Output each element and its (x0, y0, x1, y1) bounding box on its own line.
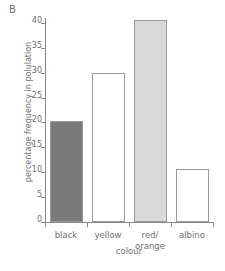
y-tick-label: 20 (32, 116, 42, 124)
y-tick-label: 5 (37, 191, 42, 199)
y-tick-label: 25 (32, 92, 42, 100)
x-tick-mark (87, 222, 88, 227)
panel-label: B (9, 5, 16, 15)
x-tick-label-albino: albino (171, 230, 213, 241)
bar-red-orange (134, 20, 167, 222)
x-axis-title: colour (45, 247, 213, 256)
plot-area: 0510152025303540 blackyellowred/ orangea… (45, 18, 213, 222)
x-tick-label-yellow: yellow (87, 230, 129, 241)
figure-panel-b: B percentage frequency in polulation 051… (0, 0, 225, 271)
x-tick-mark (213, 222, 214, 227)
y-tick-label: 35 (32, 42, 42, 50)
x-tick-mark (45, 222, 46, 227)
y-tick-label: 30 (32, 67, 42, 75)
x-tick-mark (129, 222, 130, 227)
x-tick-label-black: black (45, 230, 87, 241)
y-axis-spine (45, 18, 46, 222)
bar-albino (176, 169, 209, 222)
y-tick-label: 40 (32, 17, 42, 25)
bar-yellow (92, 73, 125, 222)
y-tick-label: 10 (32, 166, 42, 174)
y-tick-label: 15 (32, 141, 42, 149)
y-tick-label: 0 (37, 216, 42, 224)
bar-black (50, 121, 83, 222)
x-tick-mark (171, 222, 172, 227)
